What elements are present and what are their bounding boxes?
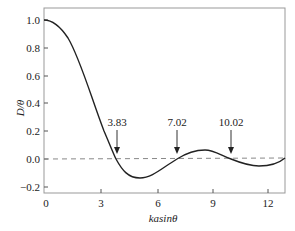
data-curve [44,20,285,178]
x-axis-label: kasinθ [149,212,178,224]
y-tick-label: 0.0 [26,153,40,165]
annotation-label: 7.02 [167,116,186,128]
y-tick-label: 0.2 [26,125,40,137]
x-tick-label: 12 [263,197,274,209]
x-ticks [101,189,268,193]
zero-reference-line [44,158,285,159]
chart: 1.0 0.8 0.6 0.4 0.2 0.0 −0.2 0 3 6 9 12 … [0,0,295,231]
x-tick-label: 3 [98,197,104,209]
x-tick-label: 0 [43,197,49,209]
annotation-10.02 [228,130,234,154]
x-tick-label: 9 [210,197,216,209]
x-tick-label: 6 [155,197,161,209]
y-ticks [44,20,48,187]
annotation-7.02 [174,130,180,154]
y-axis-label: D/θ [14,99,26,117]
annotation-label: 10.02 [219,116,244,128]
y-tick-label: 0.6 [26,70,40,82]
annotation-label: 3.83 [107,116,127,128]
y-tick-label: 0.8 [26,42,40,54]
y-tick-label: 1.0 [26,14,40,26]
y-tick-label: −0.2 [20,181,40,193]
annotation-3.83 [114,130,120,154]
y-tick-label: 0.4 [26,97,40,109]
